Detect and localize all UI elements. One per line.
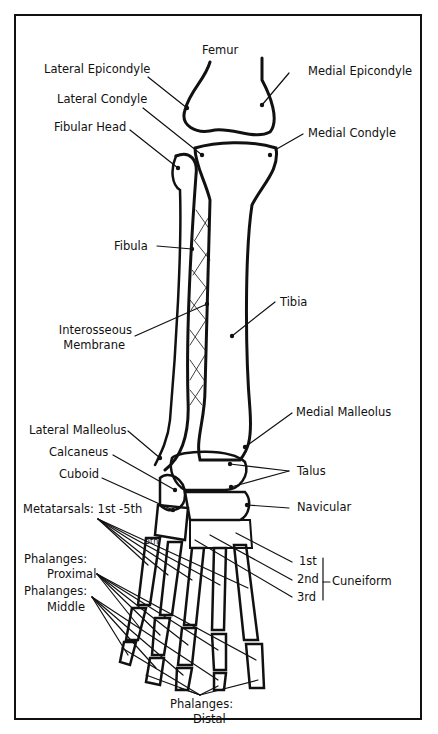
label-lateral-epicondyle: Lateral Epicondyle bbox=[44, 62, 150, 76]
label-phalanges-middle-1: Phalanges: bbox=[24, 584, 87, 598]
label-tibia: Tibia bbox=[280, 295, 307, 309]
label-medial-condyle: Medial Condyle bbox=[308, 126, 396, 140]
label-fibula: Fibula bbox=[114, 239, 148, 253]
label-medial-malleolus: Medial Malleolus bbox=[296, 405, 391, 419]
label-phalanges-proximal-1: Phalanges: bbox=[24, 552, 87, 566]
label-phalanges-middle-2: Middle bbox=[47, 600, 85, 614]
label-fibular-head: Fibular Head bbox=[54, 120, 126, 134]
label-navicular: Navicular bbox=[297, 500, 351, 514]
label-lateral-malleolus: Lateral Malleolus bbox=[29, 423, 127, 437]
label-calcaneus: Calcaneus bbox=[49, 445, 108, 459]
label-cuneiform-2nd: 2nd bbox=[297, 572, 319, 586]
label-fifth-metatarsal: 5th bbox=[145, 535, 158, 549]
leg-foot-illustration bbox=[0, 0, 438, 734]
label-membrane: Membrane bbox=[52, 338, 125, 352]
label-medial-epicondyle: Medial Epicondyle bbox=[308, 64, 412, 78]
label-lateral-condyle: Lateral Condyle bbox=[57, 92, 147, 106]
label-cuneiform-3rd: 3rd bbox=[297, 590, 316, 604]
label-interosseous: Interosseous bbox=[52, 323, 132, 337]
label-metatarsals: Metatarsals: 1st -5th bbox=[23, 502, 142, 516]
label-phalanges-distal-1: Phalanges: bbox=[170, 697, 233, 711]
label-femur: Femur bbox=[202, 43, 238, 57]
label-talus: Talus bbox=[297, 464, 326, 478]
label-phalanges-proximal-2: Proximal bbox=[47, 567, 96, 581]
label-phalanges-distal-2: Distal bbox=[193, 712, 226, 726]
label-cuboid: Cuboid bbox=[59, 467, 99, 481]
label-cuneiform: Cuneiform bbox=[332, 574, 392, 588]
label-cuneiform-1st: 1st bbox=[299, 554, 317, 568]
